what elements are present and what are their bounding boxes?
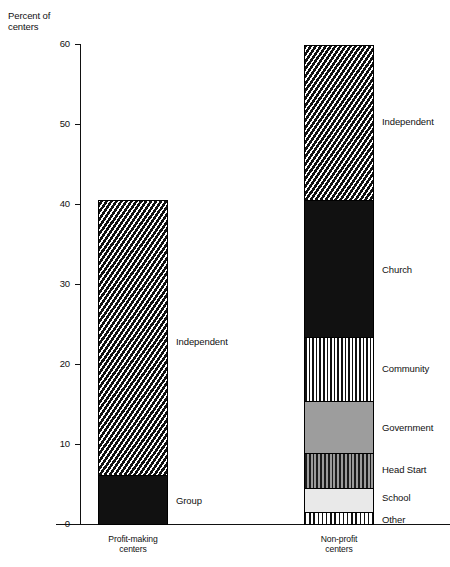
segment-label-group-profit: Group [176, 495, 202, 506]
y-tick-label-60: 60 [36, 38, 70, 49]
segment-label-church: Church [382, 264, 412, 275]
y-tick-label-0: 0 [36, 518, 70, 529]
y-tick-label-10: 10 [36, 438, 70, 449]
y-axis-title: Percent of centers [8, 10, 50, 32]
y-tick-label-20: 20 [36, 358, 70, 369]
segment-label-independent-nonprofit: Independent [382, 116, 434, 127]
bar-segment-independent-profit[interactable] [99, 201, 167, 476]
segment-label-head-start: Head Start [382, 464, 426, 475]
y-tick-label-40: 40 [36, 198, 70, 209]
y-tick-mark-60 [75, 44, 81, 45]
bar-segment-school[interactable] [305, 489, 373, 513]
x-category-label-non-profit: Non-profit centers [279, 534, 399, 554]
bar-segment-government[interactable] [305, 402, 373, 454]
bar-segment-community[interactable] [305, 338, 373, 402]
bar-profit-making[interactable] [98, 200, 168, 525]
segment-label-school: School [382, 492, 410, 503]
y-tick-mark-40 [75, 204, 81, 205]
y-tick-label-30: 30 [36, 278, 70, 289]
y-tick-mark-0 [75, 524, 81, 525]
segment-label-other: Other [382, 514, 405, 525]
y-tick-mark-10 [75, 444, 81, 445]
y-tick-label-50: 50 [36, 118, 70, 129]
bar-segment-independent-nonprofit[interactable] [305, 46, 373, 201]
x-category-label-profit-making: Profit-making centers [73, 534, 193, 554]
y-tick-mark-20 [75, 364, 81, 365]
bar-segment-head-start[interactable] [305, 454, 373, 489]
bar-segment-group-profit[interactable] [99, 476, 167, 525]
segment-label-government: Government [382, 422, 433, 433]
y-tick-mark-30 [75, 284, 81, 285]
bar-segment-other[interactable] [305, 513, 373, 525]
segment-label-community: Community [382, 363, 429, 374]
y-tick-mark-50 [75, 124, 81, 125]
segment-label-independent-profit: Independent [176, 336, 228, 347]
bar-segment-church[interactable] [305, 201, 373, 338]
bar-non-profit[interactable] [304, 45, 374, 525]
stacked-bar-chart: Percent of centers 60 50 40 30 20 10 0 I… [0, 0, 450, 567]
